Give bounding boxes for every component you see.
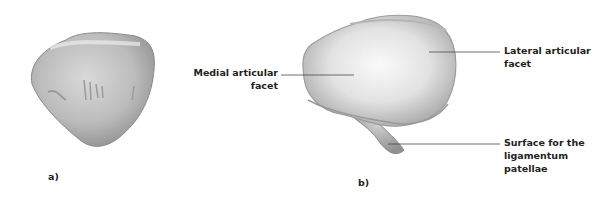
label-lateral-articular-facet: Lateral articular facet xyxy=(504,44,600,70)
label-lateral-line2: facet xyxy=(504,57,600,70)
label-surface-ligamentum-patellae: Surface for the ligamentum patellae xyxy=(504,136,600,175)
label-medial-line2: facet xyxy=(190,79,278,92)
label-medial-line1: Medial articular xyxy=(190,66,278,79)
panel-label-a: a) xyxy=(48,171,59,182)
label-medial-articular-facet: Medial articular facet xyxy=(190,66,278,92)
patella-posterior-view xyxy=(303,15,456,153)
label-surface-line2: ligamentum xyxy=(504,149,600,162)
label-surface-line3: patellae xyxy=(504,162,600,175)
label-lateral-line1: Lateral articular xyxy=(504,44,600,57)
patella-anterior-view xyxy=(31,33,154,147)
label-surface-line1: Surface for the xyxy=(504,136,600,149)
panel-label-b: b) xyxy=(358,177,369,188)
